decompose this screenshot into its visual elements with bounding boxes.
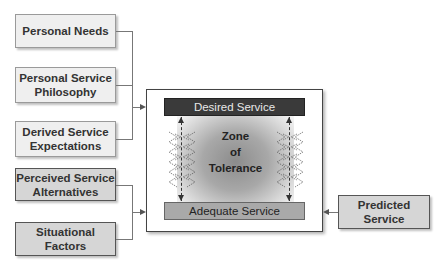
connector-line: [329, 212, 338, 213]
desired-service-bar: Desired Service: [164, 98, 305, 116]
situational-factors-box: SituationalFactors: [15, 222, 116, 256]
connector-line: [132, 107, 140, 108]
arrow-up-icon: [178, 117, 184, 123]
arrow-down-icon: [178, 195, 184, 201]
connector-line: [116, 31, 132, 32]
predicted-service-label: PredictedService: [358, 198, 410, 226]
personal-needs-label: Personal Needs: [22, 24, 108, 38]
desired-service-label: Desired Service: [194, 101, 275, 113]
adequate-service-bar: Adequate Service: [164, 202, 305, 220]
personal-needs-box: Personal Needs: [15, 14, 116, 48]
arrow-left-icon: [323, 209, 329, 215]
adequate-service-label: Adequate Service: [189, 205, 280, 217]
situational-factors-label: SituationalFactors: [36, 225, 95, 253]
personal-service-philosophy-box: Personal ServicePhilosophy: [15, 67, 116, 103]
expectations-main-box: Desired Service ZoneofTolerance Adequate…: [146, 89, 323, 232]
perceived-service-alternatives-label: Perceived ServiceAlternatives: [16, 171, 114, 199]
predicted-service-box: PredictedService: [338, 195, 430, 229]
derived-service-expectations-box: Derived ServiceExpectations: [15, 121, 116, 157]
zigzag-pattern-icon: [275, 130, 305, 190]
arrow-up-icon: [286, 117, 292, 123]
perceived-service-alternatives-box: Perceived ServiceAlternatives: [15, 168, 116, 201]
connector-line: [116, 85, 132, 86]
connector-line: [132, 212, 140, 213]
connector-line: [116, 139, 132, 140]
arrow-down-icon: [286, 195, 292, 201]
connector-line: [116, 185, 132, 186]
personal-service-philosophy-label: Personal ServicePhilosophy: [19, 71, 112, 99]
derived-service-expectations-label: Derived ServiceExpectations: [22, 125, 108, 153]
connector-line: [116, 239, 132, 240]
connector-line: [132, 31, 133, 140]
zigzag-pattern-icon: [167, 130, 197, 190]
